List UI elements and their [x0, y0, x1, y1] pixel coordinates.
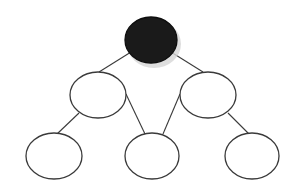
- edge-mid-left-to-bottom-left: [57, 113, 79, 134]
- node-mid-left: [70, 72, 126, 118]
- node-ellipse-bottom-center: [125, 133, 179, 179]
- node-ellipse-mid-left: [70, 72, 126, 118]
- node-bottom-right: [225, 133, 279, 179]
- edge-mid-right-to-bottom-center: [163, 94, 180, 134]
- node-mid-right: [180, 72, 236, 118]
- node-root: [125, 17, 181, 68]
- node-bottom-left: [26, 133, 82, 179]
- edge-mid-right-to-bottom-right: [228, 113, 249, 134]
- node-ellipse-mid-right: [180, 72, 236, 118]
- node-ellipse-root: [125, 17, 177, 63]
- edge-mid-left-to-bottom-center: [126, 94, 145, 134]
- node-ellipse-bottom-left: [26, 133, 82, 179]
- node-bottom-center: [125, 133, 179, 179]
- node-ellipse-bottom-right: [225, 133, 279, 179]
- nodes-group: [26, 17, 279, 179]
- tree-diagram: [0, 0, 293, 186]
- edge-root-to-mid-left: [99, 52, 131, 72]
